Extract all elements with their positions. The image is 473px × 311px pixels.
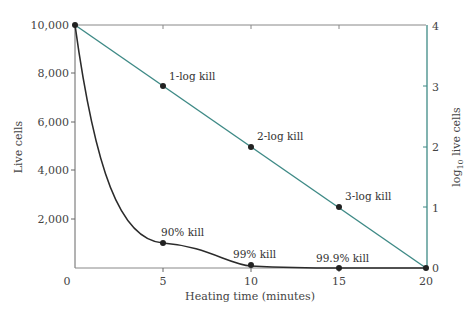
- x-tick-10: 10: [244, 275, 258, 288]
- x-tick-15: 15: [332, 275, 346, 288]
- r-tick-0: 0: [432, 262, 439, 275]
- r-tick-2: 2: [432, 141, 439, 154]
- y2-axis-title: log10 live cells: [450, 107, 465, 187]
- annotation-99-9-kill: 99.9% kill: [316, 252, 370, 264]
- left-axis-ticks: [71, 73, 75, 219]
- r-tick-1: 1: [432, 202, 439, 215]
- x-tick-20: 20: [419, 275, 433, 288]
- annotation-90-kill: 90% kill: [161, 226, 205, 238]
- y-tick-10000: 10,000: [31, 19, 70, 32]
- annotation-3-log-kill: 3-log kill: [345, 190, 392, 202]
- annotation-2-log-kill: 2-log kill: [257, 130, 304, 142]
- y-tick-2000: 2,000: [38, 213, 70, 226]
- annotation-1-log-kill: 1-log kill: [169, 70, 216, 82]
- y-tick-6000: 6,000: [38, 116, 70, 129]
- x-tick-5: 5: [160, 275, 167, 288]
- y-tick-8000: 8,000: [38, 67, 70, 80]
- kill-curve-chart: 10,000 8,000 6,000 4,000 2,000 Live cell…: [0, 0, 473, 311]
- r-tick-3: 3: [432, 81, 439, 94]
- x-tick-0: 0: [64, 275, 71, 288]
- annotation-99-kill: 99% kill: [233, 248, 277, 260]
- y-axis-title: Live cells: [12, 120, 25, 173]
- r-tick-4: 4: [432, 20, 439, 33]
- y-tick-4000: 4,000: [38, 164, 70, 177]
- x-axis-title: Heating time (minutes): [185, 290, 315, 303]
